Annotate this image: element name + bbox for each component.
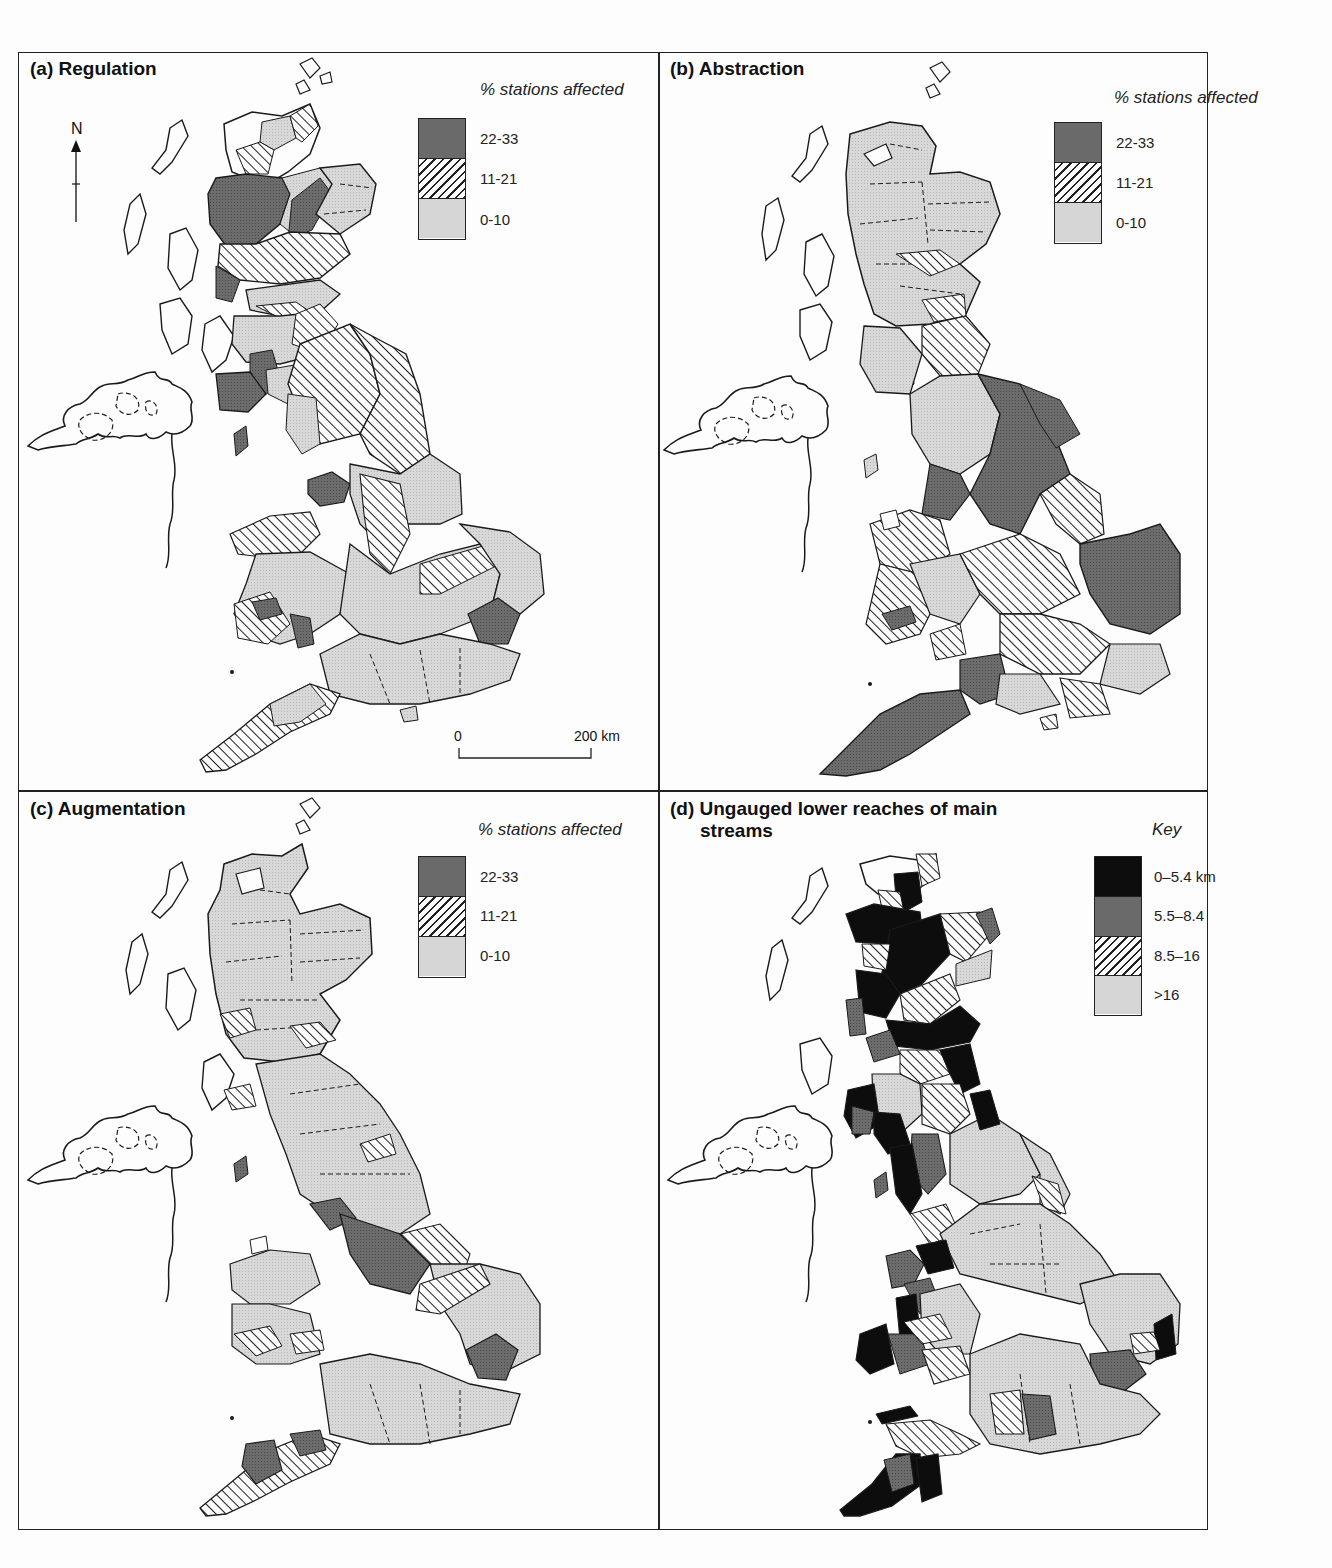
swatch-dark-stipple (419, 119, 465, 159)
legend-label-low: 0-10 (480, 211, 510, 228)
legend-label-class1: 0–5.4 km (1154, 868, 1216, 885)
swatch-light-stipple (419, 199, 465, 238)
legend-label-class2: 5.5–8.4 (1154, 907, 1204, 924)
legend-label-low: 0-10 (1116, 214, 1146, 231)
legend-label-high: 22-33 (1116, 134, 1154, 151)
swatch-dark-stipple (1095, 897, 1141, 937)
swatch-black (1095, 857, 1141, 897)
legend-label-mid: 11-21 (480, 170, 517, 187)
swatch-light-stipple (1095, 976, 1141, 1014)
swatch-hatch (419, 159, 465, 199)
swatch-light-stipple (1055, 203, 1101, 242)
panel-augmentation: (c) Augmentation (20, 794, 660, 1532)
panel-ungauged-reaches: (d) Ungauged lower reaches of main strea… (660, 794, 1300, 1532)
gb-map-ungauged (660, 794, 1300, 1532)
legend-swatches (1094, 856, 1142, 1016)
swatch-dark-stipple (419, 857, 465, 897)
legend-title: % stations affected (478, 820, 622, 840)
swatch-dark-stipple (1055, 123, 1101, 163)
legend-swatches (1054, 122, 1102, 244)
legend-label-class4: >16 (1154, 986, 1179, 1003)
legend-swatches (418, 856, 466, 978)
legend-title: Key (1152, 820, 1181, 840)
legend-label-low: 0-10 (480, 947, 510, 964)
legend-label-mid: 11-21 (1116, 174, 1153, 191)
gb-map-regulation (20, 54, 660, 792)
swatch-light-stipple (419, 937, 465, 976)
north-label: N (71, 120, 83, 138)
scale-end-label: 200 km (574, 728, 620, 744)
legend-title: % stations affected (480, 80, 624, 100)
legend-label-mid: 11-21 (480, 907, 517, 924)
swatch-hatch (419, 897, 465, 937)
panel-regulation: (a) Regulation (20, 54, 660, 792)
legend-title: % stations affected (1114, 88, 1258, 108)
legend-label-high: 22-33 (480, 130, 518, 147)
gb-map-augmentation (20, 794, 660, 1532)
panel-abstraction: (b) Abstraction (660, 54, 1300, 792)
legend-label-class3: 8.5–16 (1154, 947, 1200, 964)
swatch-hatch (1095, 937, 1141, 976)
legend-label-high: 22-33 (480, 868, 518, 885)
scale-start-label: 0 (454, 728, 462, 744)
swatch-hatch (1055, 163, 1101, 203)
gb-map-abstraction (660, 54, 1300, 792)
legend-swatches (418, 118, 466, 240)
